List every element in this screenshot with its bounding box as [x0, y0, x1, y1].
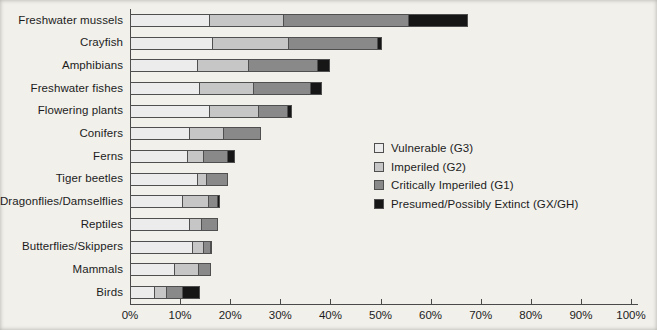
legend-label: Vulnerable (G3): [391, 142, 473, 154]
bar-segment: [209, 14, 284, 27]
bar-segment: [283, 14, 408, 27]
bar-segment: [130, 82, 200, 95]
bar-segment: [223, 127, 261, 140]
x-tick-label: 30%: [269, 309, 292, 321]
x-tick-label: 10%: [169, 309, 192, 321]
x-tick-label: 40%: [319, 309, 342, 321]
category-label: Freshwater mussels: [0, 9, 123, 32]
bar-row: [130, 213, 631, 236]
category-labels: Freshwater musselsCrayfishAmphibiansFres…: [0, 9, 123, 304]
x-tick-labels: 0%10%20%30%40%50%60%70%80%90%100%: [130, 309, 631, 323]
x-tick: [431, 299, 432, 304]
bar-segment: [248, 59, 318, 72]
bar-track: [130, 218, 631, 231]
category-label: Mammals: [0, 259, 123, 282]
bar-segment: [253, 82, 311, 95]
legend-swatch: [374, 199, 384, 209]
bar-track: [130, 286, 631, 299]
bar-row: [130, 9, 631, 32]
legend: Vulnerable (G3)Imperiled (G2)Critically …: [374, 139, 578, 213]
bar-segment: [227, 150, 235, 163]
bar-row: [130, 32, 631, 55]
bar-segment: [198, 263, 211, 276]
category-label: Butterflies/Skippers: [0, 236, 123, 259]
x-axis-line: [130, 304, 638, 305]
bar-segment: [182, 286, 200, 299]
bar-segment: [217, 195, 220, 208]
bar-segment: [130, 218, 190, 231]
legend-item: Presumed/Possibly Extinct (GX/GH): [374, 195, 578, 214]
legend-swatch: [374, 180, 384, 190]
bar-segment: [197, 59, 250, 72]
bar-segment: [130, 105, 210, 118]
bar-segment: [187, 150, 205, 163]
x-tick: [230, 299, 231, 304]
legend-label: Imperiled (G2): [391, 161, 466, 173]
x-tick-label: 70%: [469, 309, 492, 321]
x-tick-label: 50%: [369, 309, 392, 321]
legend-item: Critically Imperiled (G1): [374, 176, 578, 195]
bar-segment: [258, 105, 288, 118]
bar-segment: [166, 286, 184, 299]
x-tick: [381, 299, 382, 304]
bar-segment: [203, 150, 228, 163]
legend-label: Presumed/Possibly Extinct (GX/GH): [391, 198, 578, 210]
bar-segment: [130, 37, 213, 50]
chart-page: { "chart_data": { "type": "bar", "orient…: [0, 0, 657, 330]
bar-segment: [189, 127, 224, 140]
bar-segment: [182, 195, 210, 208]
bar-segment: [130, 241, 193, 254]
x-tick-label: 0%: [122, 309, 139, 321]
category-label: Flowering plants: [0, 100, 123, 123]
legend-item: Vulnerable (G3): [374, 139, 578, 158]
x-tick-label: 90%: [569, 309, 592, 321]
bar-segment: [212, 37, 290, 50]
bar-track: [130, 105, 631, 118]
category-label: Birds: [0, 281, 123, 304]
category-label: Conifers: [0, 122, 123, 145]
x-tick: [330, 299, 331, 304]
bar-track: [130, 263, 631, 276]
x-tick: [581, 299, 582, 304]
category-label: Ferns: [0, 145, 123, 168]
bar-segment: [130, 150, 188, 163]
category-label: Crayfish: [0, 32, 123, 55]
bar-segment: [317, 59, 330, 72]
x-tick-label: 100%: [616, 309, 645, 321]
bar-segment: [408, 14, 468, 27]
bar-segment: [210, 241, 213, 254]
bar-segment: [206, 173, 229, 186]
bar-row: [130, 54, 631, 77]
bar-track: [130, 37, 631, 50]
category-label: Freshwater fishes: [0, 77, 123, 100]
x-tick-layer: [130, 299, 631, 304]
x-tick: [180, 299, 181, 304]
legend-label: Critically Imperiled (G1): [391, 179, 514, 191]
bar-row: [130, 77, 631, 100]
category-label: Amphibians: [0, 54, 123, 77]
x-tick: [280, 299, 281, 304]
legend-item: Imperiled (G2): [374, 158, 578, 177]
bar-segment: [377, 37, 382, 50]
bar-segment: [130, 14, 210, 27]
bar-segment: [201, 218, 219, 231]
x-tick: [531, 299, 532, 304]
bar-segment: [287, 105, 292, 118]
bar-row: [130, 100, 631, 123]
legend-swatch: [374, 162, 384, 172]
bar-track: [130, 241, 631, 254]
category-label: Dragonflies/Damselflies: [0, 191, 123, 214]
bar-segment: [130, 173, 198, 186]
bar-row: [130, 259, 631, 282]
x-tick-label: 60%: [419, 309, 442, 321]
x-tick: [130, 299, 131, 304]
bar-segment: [310, 82, 323, 95]
bar-segment: [130, 286, 155, 299]
category-label: Tiger beetles: [0, 168, 123, 191]
legend-swatch: [374, 143, 384, 153]
bar-segment: [288, 37, 378, 50]
bar-segment: [130, 127, 190, 140]
bar-track: [130, 14, 631, 27]
x-tick-label: 80%: [519, 309, 542, 321]
bar-track: [130, 59, 631, 72]
